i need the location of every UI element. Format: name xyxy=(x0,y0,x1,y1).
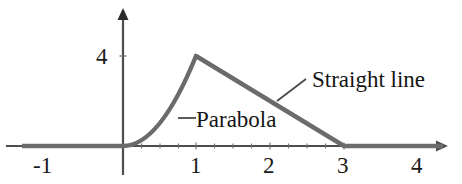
curve-segment-parabola xyxy=(123,56,196,146)
x-tick-label-neg1: -1 xyxy=(33,154,52,177)
straight-line-annotation-label: Straight line xyxy=(312,68,425,91)
graph-figure: -1 1 2 3 4 4 Parabola Straight line xyxy=(0,0,462,184)
y-axis-group xyxy=(118,8,129,175)
parabola-annotation-label: Parabola xyxy=(196,108,276,131)
straight-line-leader-line xyxy=(277,79,306,101)
x-tick-label-3: 3 xyxy=(337,154,349,177)
x-tick-label-2: 2 xyxy=(263,154,275,177)
y-axis-arrowhead xyxy=(118,8,129,20)
plot-canvas xyxy=(0,0,462,184)
x-tick-label-4: 4 xyxy=(411,154,423,177)
y-tick-label-4: 4 xyxy=(96,45,108,68)
x-tick-label-1: 1 xyxy=(190,154,202,177)
